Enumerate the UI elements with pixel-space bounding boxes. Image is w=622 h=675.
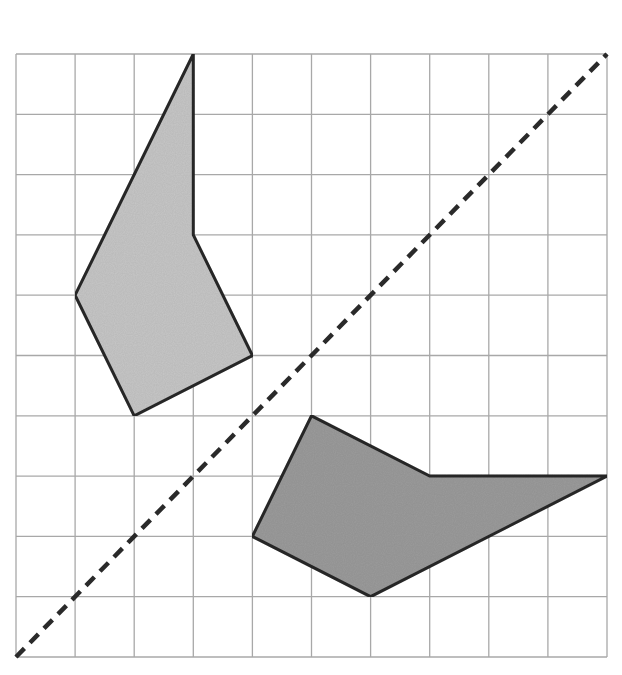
reflection-diagram [0, 0, 622, 675]
